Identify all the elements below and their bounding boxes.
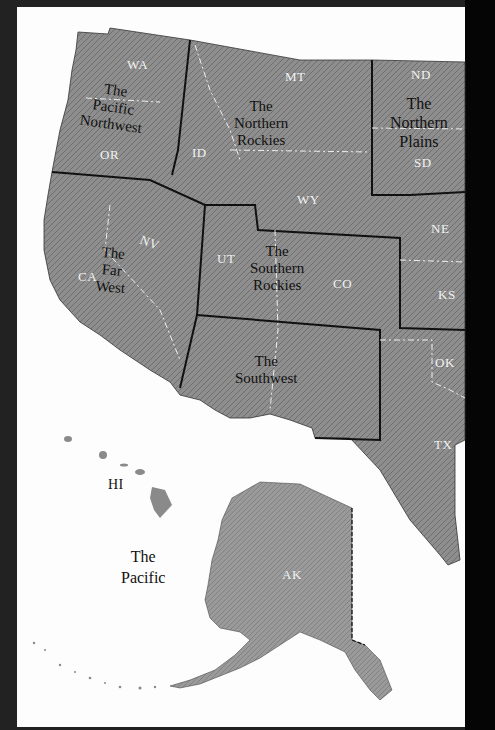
- state-label-ak: AK: [282, 568, 302, 581]
- state-label-sd: SD: [414, 156, 432, 169]
- state-label-mt: MT: [285, 70, 306, 83]
- region-line: The: [235, 353, 298, 370]
- region-label-pacific-northwest: The Pacific Northwest: [79, 78, 148, 137]
- state-label-ut: UT: [217, 252, 235, 265]
- region-line: Pacific: [121, 567, 165, 588]
- region-line: Northern: [234, 115, 288, 132]
- region-line: West: [95, 278, 126, 298]
- state-label-id: ID: [192, 146, 207, 159]
- region-line: Southwest: [235, 370, 298, 387]
- region-line: Rockies: [234, 132, 288, 149]
- alaska-border: [352, 508, 365, 645]
- region-line: Southern: [250, 260, 304, 277]
- state-label-co: CO: [333, 277, 352, 290]
- region-line: The: [234, 98, 288, 115]
- region-label-southwest: The Southwest: [235, 353, 298, 387]
- region-line: The: [121, 546, 165, 567]
- region-label-far-west: The Far West: [95, 244, 129, 297]
- state-label-hi: HI: [108, 478, 124, 492]
- state-label-nd: ND: [411, 68, 431, 81]
- state-label-ks: KS: [438, 288, 456, 301]
- state-label-or: OR: [100, 148, 119, 161]
- region-line: The: [250, 243, 304, 260]
- region-line: The: [390, 94, 448, 113]
- state-label-wy: WY: [297, 193, 320, 206]
- region-label-northern-plains: The Northern Plains: [390, 94, 448, 151]
- state-label-tx: TX: [434, 438, 452, 451]
- region-line: Plains: [390, 132, 448, 151]
- region-label-northern-rockies: The Northern Rockies: [234, 98, 288, 149]
- state-label-wa: WA: [127, 58, 148, 71]
- state-label-ok: OK: [435, 356, 455, 369]
- region-label-southern-rockies: The Southern Rockies: [250, 243, 304, 294]
- landmass-alaska: [170, 482, 392, 700]
- region-label-pacific: The Pacific: [121, 546, 165, 588]
- state-label-ca: CA: [78, 270, 97, 283]
- state-label-ne: NE: [431, 222, 449, 235]
- region-line: Northern: [390, 113, 448, 132]
- region-line: Rockies: [250, 277, 304, 294]
- aleutian-islands: [33, 642, 156, 690]
